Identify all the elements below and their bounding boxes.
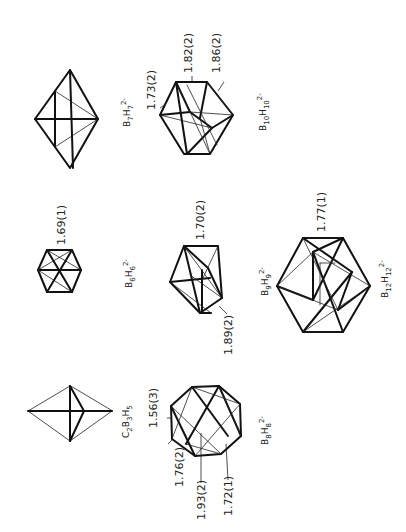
formula-b12h12: B12H122- <box>378 260 394 298</box>
bond-label: 1.76(2) <box>174 447 185 487</box>
formula-b9h9: B9H92- <box>258 267 274 296</box>
formula-b8h8: B8H82- <box>258 416 274 445</box>
formula-b7h7: B7H72- <box>120 98 136 127</box>
c2b3h5-structure <box>28 386 112 441</box>
b10h10-structure <box>160 76 233 154</box>
bond-label: 1.82(2) <box>183 33 194 73</box>
borane-cluster-diagram <box>0 0 406 532</box>
bond-label: 1.73(2) <box>146 70 157 110</box>
bond-label: 1.93(2) <box>196 480 207 520</box>
formula-b6h6: B6H62- <box>122 259 138 288</box>
bond-label: 1.69(1) <box>56 205 67 245</box>
bond-label: 1.89(2) <box>223 315 234 355</box>
formula-b10h10: B10H102- <box>256 93 272 131</box>
bond-label: 1.72(1) <box>223 476 234 516</box>
bond-label: 1.56(3) <box>148 388 159 428</box>
b6h6-structure <box>38 250 81 292</box>
bond-label: 1.77(1) <box>316 192 327 232</box>
bond-label: 1.70(2) <box>195 200 206 240</box>
b12h12-structure <box>277 238 370 332</box>
b9h9-structure <box>170 246 227 314</box>
bond-label: 1.86(2) <box>211 33 222 73</box>
formula-c2b3h5: C2B3H5 <box>122 405 135 438</box>
b7h7-structure <box>35 70 98 168</box>
